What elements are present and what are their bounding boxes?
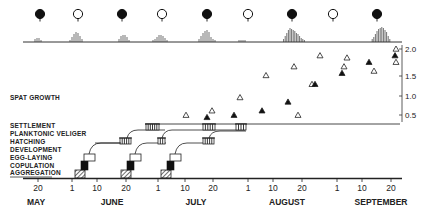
- x-tick-label: 20: [297, 183, 307, 193]
- new-moon-icon: [35, 9, 44, 21]
- open-triangle-marker: [263, 72, 269, 77]
- month-label: AUGUST: [269, 197, 306, 207]
- filled-triangle-marker: [392, 53, 398, 58]
- x-tick-label: 10: [92, 183, 102, 193]
- month-label: JUNE: [101, 197, 124, 207]
- full-moon-icon: [73, 9, 82, 21]
- open-triangle-marker: [291, 64, 297, 69]
- filled-triangle-marker: [285, 99, 291, 104]
- copulation-box: [167, 161, 174, 170]
- month-label: JULY: [186, 197, 207, 207]
- copulation-box: [127, 161, 134, 170]
- x-tick-label: 1: [246, 183, 251, 193]
- y-tick-label: 1.0: [405, 92, 417, 101]
- x-tick-label: 10: [357, 183, 367, 193]
- aggregation-box: [161, 170, 171, 178]
- x-tick-label: 1: [156, 183, 161, 193]
- month-labels: MAYJUNEJULYAUGUSTSEPTEMBER: [27, 197, 408, 207]
- open-triangle-marker: [341, 64, 347, 69]
- open-triangle-marker: [393, 59, 399, 64]
- x-tick-label: 1: [335, 183, 340, 193]
- open-triangle-marker: [317, 53, 323, 58]
- full-moon-icon: [328, 9, 337, 21]
- spat-growth-points: [183, 46, 399, 120]
- label-copulation: COPULATION: [10, 162, 55, 169]
- new-moon-icon: [287, 9, 296, 21]
- label-egg-laying: EGG-LAYING: [10, 154, 53, 161]
- open-triangle-marker: [209, 108, 215, 113]
- life-cycle-diagram: 2.01.51.00.5 SPAT GROWTH SETTLEMENT PLAN…: [0, 0, 421, 212]
- new-moon-icon: [117, 9, 126, 21]
- label-settlement: SETTLEMENT: [10, 122, 55, 129]
- filled-triangle-marker: [366, 59, 372, 64]
- new-moon-icon: [202, 9, 211, 21]
- label-planktonic-veliger: PLANKTONIC VELIGER: [10, 130, 87, 137]
- x-axis-ticks: 2011020110201102011020: [33, 178, 396, 193]
- label-hatching: HATCHING: [10, 138, 45, 145]
- month-label: SEPTEMBER: [355, 197, 408, 207]
- x-tick-label: 20: [208, 183, 218, 193]
- x-tick-label: 1: [70, 183, 75, 193]
- filled-triangle-marker: [339, 70, 345, 75]
- egg-laying-box: [170, 154, 181, 161]
- label-aggregation: AGGREGATION: [10, 169, 61, 176]
- cycle-3: [161, 143, 206, 178]
- filled-triangle-marker: [259, 108, 265, 113]
- open-triangle-marker: [295, 112, 301, 117]
- histograms: [35, 27, 390, 42]
- aggregation-box: [121, 170, 131, 178]
- aggregation-box: [75, 170, 85, 178]
- y-tick-label: 0.5: [405, 111, 417, 120]
- moon-phase-row: [35, 9, 381, 21]
- reproductive-cycles: [75, 124, 247, 178]
- x-tick-label: 20: [386, 183, 396, 193]
- full-moon-icon: [243, 9, 252, 21]
- x-tick-label: 10: [268, 183, 278, 193]
- y-tick-label: 2.0: [405, 45, 417, 54]
- x-tick-label: 20: [33, 183, 43, 193]
- copulation-box: [81, 161, 88, 170]
- open-triangle-marker: [237, 95, 243, 100]
- label-development: DEVELOPMENT: [10, 146, 62, 153]
- cycle-1: [75, 143, 120, 178]
- new-moon-icon: [372, 9, 381, 21]
- open-triangle-marker: [371, 68, 377, 73]
- filled-triangle-marker: [231, 112, 237, 117]
- open-triangle-marker: [183, 112, 189, 117]
- month-label: MAY: [27, 197, 45, 207]
- x-tick-label: 20: [121, 183, 131, 193]
- y-tick-label: 1.5: [405, 72, 417, 81]
- egg-laying-box: [130, 154, 141, 161]
- cycle-2: [121, 143, 166, 178]
- open-triangle-marker: [393, 46, 399, 51]
- x-tick-label: 10: [180, 183, 190, 193]
- open-triangle-marker: [344, 55, 350, 60]
- filled-triangle-marker: [204, 114, 210, 119]
- label-spat-growth: SPAT GROWTH: [10, 94, 60, 101]
- egg-laying-box: [84, 154, 95, 161]
- full-moon-icon: [157, 9, 166, 21]
